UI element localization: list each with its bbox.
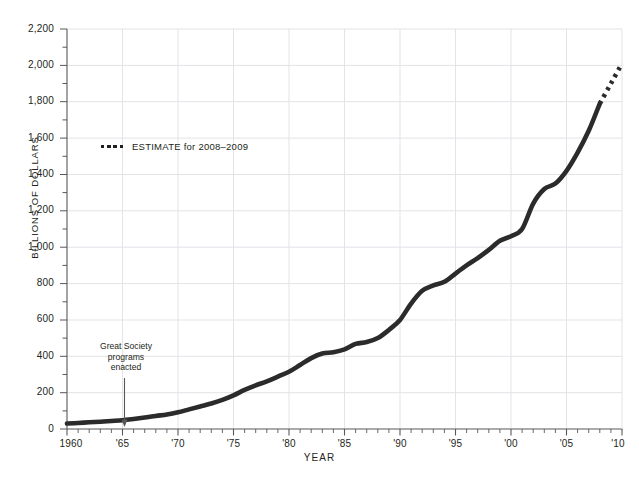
x-tick-label: 1960 bbox=[49, 438, 93, 449]
chart-plot-area bbox=[0, 0, 639, 481]
annotation-line-2: programs bbox=[84, 352, 168, 363]
y-tick-label: 800 bbox=[8, 277, 54, 288]
y-tick-label: 2,200 bbox=[8, 23, 54, 34]
x-tick-label: '00 bbox=[489, 438, 533, 449]
x-tick-label: '90 bbox=[378, 438, 422, 449]
y-tick-label: 1,600 bbox=[8, 132, 54, 143]
x-tick-label: '65 bbox=[101, 438, 145, 449]
x-tick-label: '75 bbox=[212, 438, 256, 449]
y-tick-label: 400 bbox=[8, 350, 54, 361]
great-society-annotation: Great Society programs enacted bbox=[84, 341, 168, 373]
y-tick-label: 1,800 bbox=[8, 95, 54, 106]
y-tick-label: 1,400 bbox=[8, 168, 54, 179]
x-tick-label: '95 bbox=[434, 438, 478, 449]
y-tick-label: 0 bbox=[8, 423, 54, 434]
x-tick-label: '10 bbox=[596, 438, 639, 449]
legend: ESTIMATE for 2008–2009 bbox=[101, 141, 248, 152]
x-tick-label: '85 bbox=[323, 438, 367, 449]
annotation-line-1: Great Society bbox=[84, 341, 168, 352]
x-axis-ticks bbox=[67, 429, 622, 436]
y-tick-label: 600 bbox=[8, 313, 54, 324]
y-tick-label: 200 bbox=[8, 386, 54, 397]
y-tick-label: 1,200 bbox=[8, 204, 54, 215]
x-axis-title: YEAR bbox=[0, 452, 639, 463]
estimate-dotted-swatch-icon bbox=[101, 145, 125, 148]
y-tick-label: 2,000 bbox=[8, 59, 54, 70]
y-tick-label: 1,000 bbox=[8, 241, 54, 252]
x-tick-label: '70 bbox=[156, 438, 200, 449]
legend-label-estimate: ESTIMATE for 2008–2009 bbox=[132, 141, 248, 152]
x-tick-label: '05 bbox=[545, 438, 589, 449]
x-tick-label: '80 bbox=[267, 438, 311, 449]
annotation-line-3: enacted bbox=[84, 362, 168, 373]
chart-figure: BILLIONS OF DOLLARS YEAR 02004006008001,… bbox=[0, 0, 639, 481]
y-axis-ticks bbox=[60, 29, 67, 429]
data-line-estimate bbox=[600, 64, 622, 104]
